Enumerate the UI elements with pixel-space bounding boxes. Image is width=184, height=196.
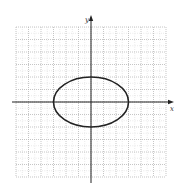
x-axis-label: x (170, 105, 174, 113)
coordinate-plane: x y (0, 0, 184, 196)
axes: x y (12, 15, 174, 183)
y-axis-label: y (84, 16, 90, 24)
y-axis-arrow-icon (89, 15, 93, 21)
x-axis-arrow-icon (168, 100, 174, 104)
